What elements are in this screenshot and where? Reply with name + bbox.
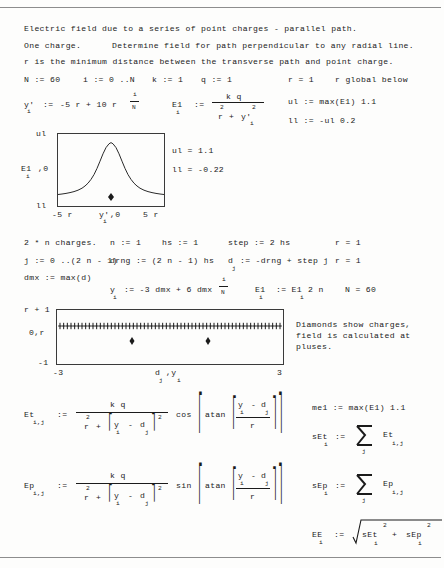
sEt-sigma-icon [355, 424, 375, 448]
E1-den-y-subscript: i [250, 120, 254, 127]
bottom-divider [0, 557, 441, 558]
plot-one-frame[interactable] [57, 133, 165, 207]
Et-atan-fn: atan [205, 410, 226, 419]
Ep-den-minus: - [128, 491, 133, 500]
def-y-rhs: := -3 dmx + 6 dmx [124, 285, 213, 294]
E1-redef-rhs-subscript: i [300, 294, 304, 301]
plot-one-y-mid-subscript: i [26, 173, 30, 180]
top-divider [0, 7, 441, 8]
Ep-inner-open-bracket: ⎡ [232, 471, 237, 500]
Ep-trig-fn: sin [176, 481, 192, 490]
Et-trig-fn: cos [176, 410, 192, 419]
E1-fraction-bar [212, 102, 264, 103]
def-q: q := 1 [201, 75, 232, 84]
Ep-arg-num-y-subscript: i [240, 480, 244, 487]
plot-one-charge-marker-svg [106, 192, 116, 202]
plot-two-x-mid-subscript: j [159, 377, 163, 384]
plot-two-frame[interactable] [56, 309, 284, 365]
Ep-outer-close-bracket: ⎤ [278, 469, 283, 504]
Ep-numerator: k q [110, 471, 126, 480]
Ep-den-d-subscript: j [145, 500, 149, 507]
note-r-global: r global below [335, 75, 408, 84]
def-N: N := 60 [24, 75, 60, 84]
Ep-atan-fn: atan [205, 481, 226, 490]
Ep-assign: := [57, 481, 67, 490]
legend-note-line-3: pluses. [296, 342, 332, 351]
Ep-fraction-bar [76, 483, 168, 484]
def-n: n := 1 [110, 238, 141, 247]
Et-arg-num-y-subscript: i [240, 409, 244, 416]
Et-lhs-subscript: i,j [33, 419, 45, 426]
E1-den-r-exponent: 2 [220, 104, 224, 111]
Et-inner-open-bracket: ⎡ [232, 400, 237, 429]
def-drng: drng := (2 n - 1) hs [110, 256, 214, 265]
plot-one-x-mid-suffix: ,0 [110, 210, 120, 219]
E1-den-plus: + [229, 112, 234, 121]
E1-redef-lhs-subscript: i [259, 294, 263, 301]
Et-fraction-bar [76, 412, 168, 413]
def-y-lhs: y [110, 285, 115, 294]
def-y-frac-denominator: N [221, 289, 225, 296]
def-y-frac-numerator: i [222, 276, 226, 283]
title-line-2a: One charge. [24, 41, 81, 50]
Et-den-minus: - [128, 420, 133, 429]
sEp-lhs-subscript: i [324, 490, 328, 497]
def-d-lhs: d [228, 256, 233, 265]
plot-one-y-top-label: ul [36, 129, 46, 138]
E1-den-r: r [218, 112, 223, 121]
def-hs: hs := 1 [162, 238, 198, 247]
Ep-den-open-bracket: ⎡ [108, 487, 113, 502]
Ep-den-y-subscript: i [116, 500, 120, 507]
Et-outer-open-bracket: ⎡ [198, 398, 203, 433]
Et-arg-den: r [250, 421, 255, 430]
Et-outer-close-bracket: ⎤ [278, 398, 283, 433]
E1-numerator: k q [226, 92, 242, 101]
plot-two-x-left-label: -3 [53, 368, 63, 377]
plot-two-markers-svg [57, 310, 283, 364]
plot-two-x-mid-label: d [155, 368, 160, 377]
def-y-fraction-bar [219, 286, 228, 287]
yprime-lhs-subscript: i [27, 108, 31, 115]
E1-redef-tail: 2 n [308, 285, 324, 294]
plot-two-y-bot-label: -1 [38, 358, 48, 367]
plot-two-y-top-label: r + 1 [24, 305, 50, 314]
sEp-term: Ep [383, 479, 393, 488]
title-line-3: r is the minimum distance between the tr… [24, 57, 394, 66]
plot-one-y-bot-label: ll [36, 201, 46, 210]
Et-den-plus: + [96, 422, 101, 431]
plot-one-x-left-label: -5 r [52, 210, 73, 219]
plot-two-plus-row [58, 323, 282, 329]
section2-heading: 2 * n charges. [24, 238, 97, 247]
Et-den-open-bracket: ⎡ [108, 416, 113, 431]
def-k: k := 1 [152, 75, 183, 84]
def-j-range: j := 0 ..(2 n - 1) [24, 256, 118, 265]
sEp-sigma-index: j [362, 497, 366, 504]
sEt-term-subscript: i,j [392, 440, 404, 447]
Ep-arg-num-d: d [261, 471, 266, 480]
def-i-range: i := 0 ..N [83, 75, 135, 84]
plot-two-x-mid-subscript2: i [177, 377, 181, 384]
Et-arg-num-d-subscript: j [265, 409, 269, 416]
Et-arg-num-y: y [238, 400, 243, 409]
E1-lhs: E1 [172, 100, 182, 109]
sEt-assign: := [335, 432, 345, 441]
Ep-den-r: r [84, 493, 89, 502]
Ep-arg-num-d-subscript: j [265, 480, 269, 487]
yprime-frac-numerator: i [133, 91, 137, 98]
plot-one-y-mid-suffix: ,0 [38, 164, 48, 173]
def-ll: ll := -ul 0.2 [288, 116, 356, 125]
plot-one-x-mid-subscript: i [103, 218, 107, 225]
Et-numerator: k q [110, 400, 126, 409]
EE-term-b-subscript: i [418, 540, 422, 547]
title-line-1: Electric field due to a series of point … [24, 24, 357, 33]
Et-den-r: r [84, 422, 89, 431]
Ep-den-r-exponent: 2 [86, 485, 90, 492]
def-dmx: dmx := max(d) [24, 273, 92, 282]
def-me1: me1 := max(E1) 1.1 [312, 403, 406, 412]
sEt-sigma-index: j [362, 448, 366, 455]
Et-den-d-subscript: j [145, 429, 149, 436]
Ep-den-y: y [114, 491, 119, 500]
EE-term-b: sEp [406, 530, 422, 539]
E1-redef-lhs: E1 [255, 285, 265, 294]
